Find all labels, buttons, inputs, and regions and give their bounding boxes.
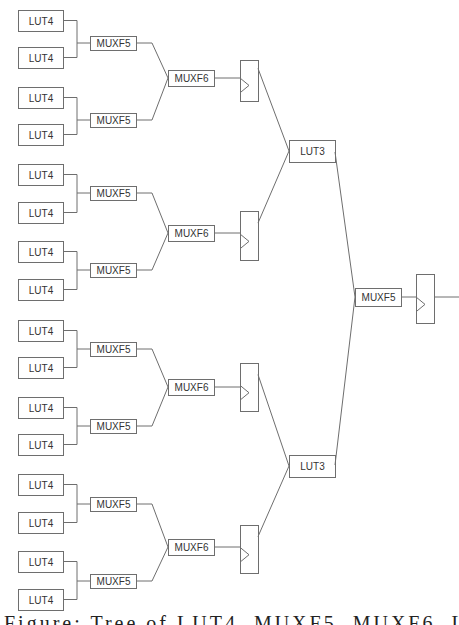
muxf5-block: MUXF5 [91,420,137,434]
muxf5-block-label: MUXF5 [97,421,131,432]
muxf5-to-muxf6-wire [136,43,168,78]
lut4-block-label: LUT4 [29,518,54,529]
muxf6-block: MUXF6 [169,380,215,396]
muxf5-block: MUXF5 [91,343,137,357]
ff-to-lut3-wire [258,68,289,151]
flip-flop-block [241,526,259,574]
final-flip-flop-block [417,275,435,324]
muxf5-block: MUXF5 [91,114,137,128]
lut4-to-muxf5-wire [63,21,77,58]
muxf5-block: MUXF5 [91,498,137,512]
lut4-to-muxf5-wire [63,485,77,523]
lut4-block: LUT4 [19,242,64,263]
lut4-block: LUT4 [19,165,64,186]
lut4-block-label: LUT4 [29,480,54,491]
muxf5-to-muxf6-wire [136,387,168,426]
lut4-block-label: LUT4 [29,208,54,219]
lut4-block: LUT4 [19,398,64,419]
ff-to-lut3-wire [258,375,289,466]
lut4-block-label: LUT4 [29,170,54,181]
lut4-block: LUT4 [19,88,64,109]
lut4-block-label: LUT4 [29,130,54,141]
muxf6-block-label: MUXF6 [175,542,209,553]
lut4-block-label: LUT4 [29,595,54,606]
muxf5-block-label: MUXF5 [97,576,131,587]
muxf5-to-muxf6-wire [136,78,168,120]
lut4-block-label: LUT4 [29,53,54,64]
lut-mux-tree-diagram: LUT4LUT4LUT4LUT4MUXF5MUXF5MUXF6LUT4LUT4L… [0,0,459,625]
lut4-to-muxf5-wire [63,98,77,135]
ff-to-lut3-wire [258,151,289,223]
lut4-block: LUT4 [19,203,64,224]
lut4-block-label: LUT4 [29,440,54,451]
muxf5-to-muxf6-wire [136,349,168,387]
muxf6-block-label: MUXF6 [175,382,209,393]
final-muxf5-block-label: MUXF5 [362,292,396,303]
lut4-block: LUT4 [19,590,64,611]
lut4-block-label: LUT4 [29,326,54,337]
lut3-to-final-mux-wire [335,297,355,465]
lut4-block: LUT4 [19,552,64,573]
lut3-block: LUT3 [290,456,336,478]
ff-to-lut3-wire [258,466,289,537]
lut4-block: LUT4 [19,358,64,379]
flip-flop-block [241,61,259,102]
muxf6-block: MUXF6 [169,226,215,242]
lut4-block: LUT4 [19,11,64,32]
lut4-to-muxf5-wire [63,408,77,445]
lut4-block-label: LUT4 [29,285,54,296]
muxf5-block-label: MUXF5 [97,38,131,49]
muxf5-block: MUXF5 [91,264,137,278]
muxf6-block-label: MUXF6 [175,228,209,239]
muxf5-to-muxf6-wire [136,547,168,581]
lut4-block: LUT4 [19,280,64,301]
muxf5-to-muxf6-wire [136,233,168,270]
lut3-block-label: LUT3 [300,146,325,157]
lut3-block-label: LUT3 [300,461,325,472]
figure-caption: Figure: Tree of LUT4, MUXF5, MUXF6, LUT3… [4,612,459,625]
muxf5-block-label: MUXF5 [97,115,131,126]
lut4-block: LUT4 [19,125,64,146]
muxf6-block-label: MUXF6 [175,73,209,84]
muxf5-block: MUXF5 [91,575,137,589]
muxf6-block: MUXF6 [169,71,215,87]
muxf5-to-muxf6-wire [136,504,168,547]
flip-flop-block [241,212,259,261]
lut4-block-label: LUT4 [29,93,54,104]
lut4-to-muxf5-wire [63,331,77,368]
final-muxf5-block: MUXF5 [356,289,402,307]
lut4-block: LUT4 [19,513,64,534]
lut4-block-label: LUT4 [29,363,54,374]
muxf5-block-label: MUXF5 [97,344,131,355]
flip-flop-block [241,364,259,412]
muxf5-to-muxf6-wire [136,193,168,233]
lut4-block: LUT4 [19,475,64,496]
lut4-block-label: LUT4 [29,557,54,568]
muxf5-block-label: MUXF5 [97,499,131,510]
muxf6-block: MUXF6 [169,540,215,556]
lut4-to-muxf5-wire [63,252,77,290]
muxf5-block: MUXF5 [91,187,137,201]
lut4-block-label: LUT4 [29,403,54,414]
lut4-to-muxf5-wire [63,175,77,213]
muxf5-block-label: MUXF5 [97,188,131,199]
lut4-block-label: LUT4 [29,247,54,258]
lut4-block: LUT4 [19,48,64,69]
lut3-block: LUT3 [290,141,336,163]
lut4-to-muxf5-wire [63,562,77,600]
muxf5-block: MUXF5 [91,37,137,51]
muxf5-block-label: MUXF5 [97,265,131,276]
lut4-block: LUT4 [19,435,64,456]
lut3-to-final-mux-wire [335,152,355,297]
lut4-block: LUT4 [19,321,64,342]
lut4-block-label: LUT4 [29,16,54,27]
